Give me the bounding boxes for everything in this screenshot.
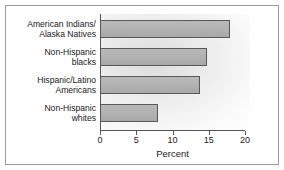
- x-axis-tick-label: 15: [194, 135, 224, 146]
- category-label: Non-Hispanic blacks: [4, 47, 96, 67]
- x-axis-tick-label: 5: [121, 135, 151, 146]
- x-axis-tick-label: 0: [85, 135, 115, 146]
- bar: [100, 20, 230, 38]
- x-axis-tick-label: 20: [230, 135, 260, 146]
- figure: 05101520 American Indians/ Alaska Native…: [0, 0, 284, 170]
- x-axis-label: Percent: [100, 148, 245, 159]
- bar: [100, 76, 200, 94]
- x-axis-tick-label: 10: [158, 135, 188, 146]
- category-label: Hispanic/Latino Americans: [4, 75, 96, 95]
- category-label: Non-Hispanic whites: [4, 103, 96, 123]
- bar: [100, 48, 207, 66]
- category-label: American Indians/ Alaska Natives: [4, 19, 96, 39]
- bar: [100, 104, 158, 122]
